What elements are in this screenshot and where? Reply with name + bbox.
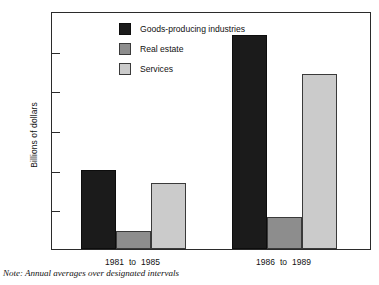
bar-1-services <box>151 183 186 249</box>
legend: Goods-producing industries Real estate S… <box>119 19 245 79</box>
legend-swatch-icon-real-estate <box>119 43 131 55</box>
legend-item-real-estate: Real estate <box>119 39 245 59</box>
x-label-connector: to <box>275 257 292 267</box>
bar-1-goods <box>81 170 116 249</box>
y-tick-mark <box>52 53 60 54</box>
y-tick-mark <box>52 172 60 173</box>
x-axis-group-label-1: 1981to1985 <box>80 257 185 267</box>
y-tick-mark <box>52 92 60 93</box>
x-label-end: 1989 <box>292 257 311 267</box>
legend-label-goods: Goods-producing industries <box>140 24 245 34</box>
y-axis-title: Billions of dollars <box>29 55 39 215</box>
legend-item-goods-producing-industries: Goods-producing industries <box>119 19 245 39</box>
x-label-start: 1981 <box>105 257 124 267</box>
figure-note: Note: Annual averages over designated in… <box>3 268 179 278</box>
x-axis-group-label-2: 1986to1989 <box>231 257 336 267</box>
bar-chart-figure: Billions of dollars $302520151050 1981to… <box>0 0 379 285</box>
legend-swatch-icon-services <box>119 63 131 75</box>
y-tick-mark <box>52 211 60 212</box>
y-tick-mark <box>52 132 60 133</box>
legend-swatch-icon-goods <box>119 23 131 35</box>
legend-item-services: Services <box>119 59 245 79</box>
bar-2-services <box>302 74 337 249</box>
x-label-start: 1986 <box>256 257 275 267</box>
legend-label-real-estate: Real estate <box>140 44 183 54</box>
legend-label-services: Services <box>140 64 173 74</box>
x-label-connector: to <box>124 257 141 267</box>
x-label-end: 1985 <box>141 257 160 267</box>
bar-2-realest <box>267 217 302 249</box>
bar-1-realest <box>116 231 151 249</box>
